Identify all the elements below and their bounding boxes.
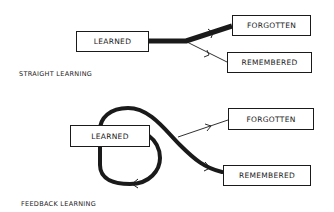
straight-forgotten-node: FORGOTTEN — [232, 15, 311, 36]
straight-remembered-node: REMEMBERED — [227, 52, 312, 73]
feedback-thin-arrow-to-forgotten — [178, 120, 228, 137]
straight-thin-arrow-to-remembered — [187, 42, 227, 62]
straight-thick-arrow-to-forgotten — [148, 26, 232, 41]
learning-diagram: LEARNED FORGOTTEN REMEMBERED STRAIGHT LE… — [0, 0, 334, 212]
straight-learning-caption: STRAIGHT LEARNING — [19, 70, 92, 78]
node-label: LEARNED — [94, 37, 131, 46]
node-label: LEARNED — [91, 132, 128, 141]
node-label: REMEMBERED — [239, 171, 295, 180]
node-label: REMEMBERED — [241, 58, 297, 67]
feedback-forgotten-node: FORGOTTEN — [228, 108, 314, 130]
node-label: FORGOTTEN — [246, 115, 295, 124]
feedback-learned-node: LEARNED — [70, 125, 150, 147]
feedback-remembered-node: REMEMBERED — [223, 165, 311, 186]
straight-learned-node: LEARNED — [76, 31, 149, 52]
node-label: FORGOTTEN — [247, 21, 296, 30]
feedback-learning-caption: FEEDBACK LEARNING — [21, 200, 96, 208]
